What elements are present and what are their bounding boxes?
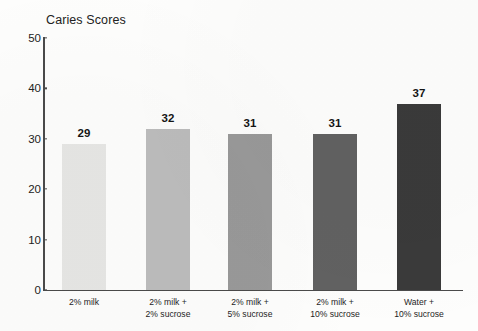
bar [146,129,190,290]
x-axis-category-label-line: 2% milk + [291,297,379,309]
y-axis-tick-mark [43,289,47,290]
bar [313,134,357,290]
x-axis-category-label-line: 2% milk + [124,297,212,309]
y-axis-tick-mark [43,189,47,190]
y-axis-tick-mark [43,138,47,139]
x-axis-category-label: Water +10% sucrose [375,297,463,320]
x-axis-category-label: 2% milk [40,297,128,309]
x-axis-category-label-line: 2% milk [40,297,128,309]
x-axis-category-label-line: Water + [375,297,463,309]
bar-value-label: 37 [397,87,441,99]
x-axis-category-label-line: 10% sucrose [291,309,379,321]
bar [228,134,272,290]
y-axis-tick-mark [43,239,47,240]
bar-value-label: 29 [62,127,106,139]
x-axis-category-label-line: 2% sucrose [124,309,212,321]
bar-value-label: 31 [228,117,272,129]
bar-value-label: 31 [313,117,357,129]
bar [62,144,106,290]
x-axis-category-label-line: 5% sucrose [206,309,294,321]
y-axis-tick-mark [43,88,47,89]
bar-value-label: 32 [146,112,190,124]
bars-layer: 292% milk322% milk +2% sucrose312% milk … [0,0,478,331]
y-axis-tick-mark [43,37,47,38]
caries-scores-bar-chart: Caries Scores 01020304050 292% milk322% … [0,0,478,331]
x-axis-category-label-line: 2% milk + [206,297,294,309]
bar [397,104,441,290]
x-axis-category-label-line: 10% sucrose [375,309,463,321]
x-axis-category-label: 2% milk +10% sucrose [291,297,379,320]
x-axis-category-label: 2% milk +2% sucrose [124,297,212,320]
x-axis-category-label: 2% milk +5% sucrose [206,297,294,320]
